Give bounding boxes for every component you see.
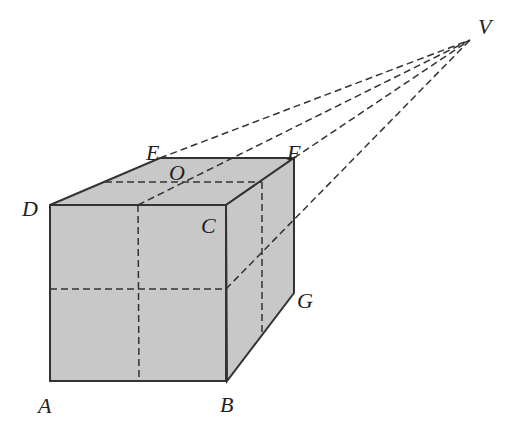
label-f: F [286, 140, 301, 165]
perspective-line-f-v [294, 40, 470, 158]
label-c: C [201, 213, 216, 238]
perspective-cube-diagram: A B C D E F G O V [0, 0, 516, 429]
label-e: E [145, 140, 160, 165]
label-a: A [36, 393, 52, 418]
perspective-line-e-v [160, 40, 470, 158]
label-g: G [297, 288, 313, 313]
label-o: O [169, 160, 185, 185]
label-d: D [21, 196, 38, 221]
label-v: V [478, 14, 494, 39]
label-b: B [220, 392, 233, 417]
perspective-line-mid-top-v [138, 40, 470, 205]
